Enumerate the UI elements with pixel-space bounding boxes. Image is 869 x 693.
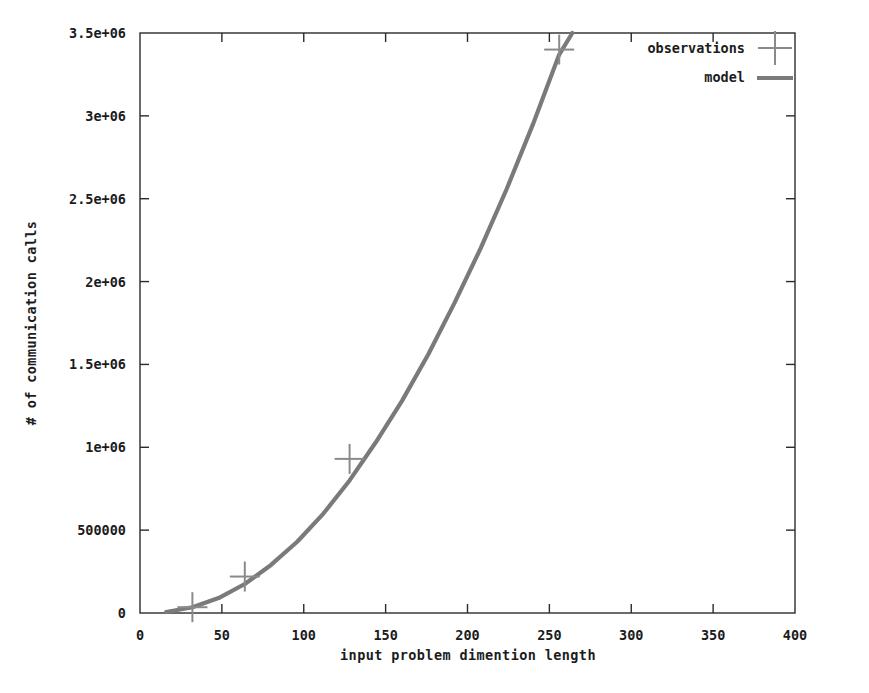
observation-point bbox=[335, 444, 365, 474]
legend-entry-observations: observations bbox=[647, 40, 745, 56]
chart-canvas: 05000001e+061.5e+062e+062.5e+063e+063.5e… bbox=[0, 0, 869, 693]
observation-point bbox=[230, 562, 260, 592]
y-tick-label: 3e+06 bbox=[85, 108, 126, 124]
y-axis-tick-labels: 05000001e+061.5e+062e+062.5e+063e+063.5e… bbox=[69, 25, 126, 621]
x-axis-tick-labels: 050100150200250300350400 bbox=[136, 627, 807, 643]
legend-plus-marker bbox=[758, 31, 792, 65]
series-observations bbox=[177, 35, 574, 623]
y-axis-ticks bbox=[140, 116, 795, 530]
y-tick-label: 1e+06 bbox=[85, 439, 126, 455]
chart-figure: 05000001e+061.5e+062e+062.5e+063e+063.5e… bbox=[0, 0, 869, 693]
chart-legend: observations model bbox=[647, 31, 793, 85]
y-axis-title: # of communication calls bbox=[23, 221, 39, 426]
y-tick-label: 1.5e+06 bbox=[69, 356, 126, 372]
y-tick-label: 0 bbox=[118, 605, 126, 621]
x-tick-label: 200 bbox=[455, 627, 479, 643]
x-tick-label: 150 bbox=[373, 627, 397, 643]
y-tick-label: 2.5e+06 bbox=[69, 191, 126, 207]
x-tick-label: 250 bbox=[537, 627, 561, 643]
plot-frame bbox=[140, 33, 795, 613]
y-tick-label: 2e+06 bbox=[85, 274, 126, 290]
x-tick-label: 100 bbox=[292, 627, 316, 643]
x-axis-ticks bbox=[222, 33, 713, 613]
y-tick-label: 500000 bbox=[77, 522, 126, 538]
x-tick-label: 300 bbox=[619, 627, 643, 643]
x-tick-label: 400 bbox=[783, 627, 807, 643]
series-model bbox=[166, 33, 572, 612]
x-axis-title: input problem dimention length bbox=[340, 647, 596, 663]
x-tick-label: 50 bbox=[214, 627, 230, 643]
x-tick-label: 350 bbox=[701, 627, 725, 643]
x-tick-label: 0 bbox=[136, 627, 144, 643]
legend-entry-model: model bbox=[704, 69, 745, 85]
observation-point bbox=[177, 592, 207, 622]
y-tick-label: 3.5e+06 bbox=[69, 25, 126, 41]
